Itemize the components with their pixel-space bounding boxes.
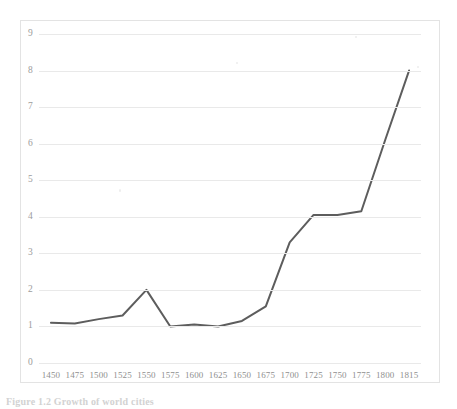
y-axis-tick-label: 9 [28, 29, 33, 39]
x-axis-tick-label: 1800 [376, 367, 394, 383]
gridline [39, 180, 421, 181]
x-axis-tick-label: 1450 [42, 367, 60, 383]
y-axis-tick-label: 0 [28, 358, 33, 368]
chart-frame: 0123456789 14501475150015251550157516001… [20, 20, 440, 383]
x-axis-tick-label: 1750 [328, 367, 346, 383]
figure: 0123456789 14501475150015251550157516001… [0, 0, 457, 409]
figure-caption: Figure 1.2 Growth of world cities [6, 396, 426, 408]
scan-speck [417, 66, 419, 68]
x-axis-tick-label: 1500 [89, 367, 107, 383]
gridline [39, 71, 421, 72]
plot-area: 0123456789 [39, 34, 421, 363]
gridline [39, 107, 421, 108]
x-axis-tick-labels: 1450147515001525155015751600162516501675… [39, 367, 421, 383]
x-axis-tick-label: 1775 [352, 367, 370, 383]
x-axis-tick-label: 1600 [185, 367, 203, 383]
gridline [39, 363, 421, 364]
x-axis-tick-label: 1815 [400, 367, 418, 383]
x-axis-tick-label: 1475 [66, 367, 84, 383]
line-series [39, 34, 421, 363]
y-axis-tick-label: 4 [28, 212, 33, 222]
x-axis-tick-label: 1650 [233, 367, 251, 383]
gridline [39, 34, 421, 35]
x-axis-tick-label: 1550 [137, 367, 155, 383]
scan-speck [355, 36, 357, 38]
x-axis-tick-label: 1675 [257, 367, 275, 383]
y-axis-tick-label: 6 [28, 139, 33, 149]
scan-speck [236, 62, 238, 64]
y-axis-tick-label: 1 [28, 322, 33, 332]
y-axis-tick-label: 3 [28, 249, 33, 259]
y-axis-tick-label: 8 [28, 66, 33, 76]
gridline [39, 144, 421, 145]
scan-speck [119, 189, 121, 192]
x-axis-tick-label: 1525 [113, 367, 131, 383]
gridline [39, 253, 421, 254]
x-axis-tick-label: 1625 [209, 367, 227, 383]
gridline [39, 290, 421, 291]
y-axis-tick-label: 2 [28, 285, 33, 295]
x-axis-tick-label: 1575 [161, 367, 179, 383]
x-axis-tick-label: 1700 [280, 367, 298, 383]
y-axis-tick-label: 7 [28, 102, 33, 112]
series-polyline [51, 71, 409, 327]
gridline [39, 217, 421, 218]
gridline [39, 326, 421, 327]
y-axis-tick-label: 5 [28, 175, 33, 185]
x-axis-tick-label: 1725 [304, 367, 322, 383]
